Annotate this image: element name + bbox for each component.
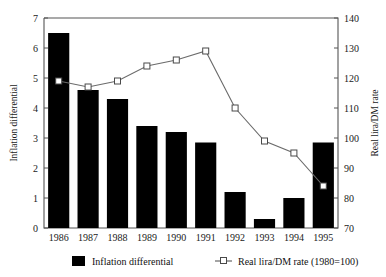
line-marker-1986 [56, 78, 62, 84]
right-tick-label-120: 120 [344, 73, 359, 84]
bar-1987 [78, 90, 99, 228]
left-tick-label-5: 5 [33, 73, 38, 84]
left-tick-label-3: 3 [33, 133, 38, 144]
x-label-1991: 1991 [196, 232, 216, 243]
x-label-1995: 1995 [313, 232, 333, 243]
line-marker-1988 [115, 78, 121, 84]
line-marker-1991 [203, 48, 209, 54]
bar-1988 [107, 99, 128, 228]
x-label-1994: 1994 [284, 232, 304, 243]
line-marker-1989 [144, 63, 150, 69]
bar-1989 [136, 126, 157, 228]
line-marker-1987 [85, 84, 91, 90]
left-tick-label-6: 6 [33, 43, 38, 54]
bar-1991 [195, 143, 216, 229]
bar-1990 [166, 132, 187, 228]
right-tick-label-90: 90 [344, 163, 354, 174]
right-tick-label-70: 70 [344, 223, 354, 234]
right-tick-label-110: 110 [344, 103, 359, 114]
left-axis-title: Inflation differential [9, 84, 19, 161]
right-axis-title: Real lira/DM rate [370, 89, 380, 156]
legend-swatch-inflation-differential [72, 256, 85, 266]
legend-marker-real-lira-dm-rate [221, 258, 227, 264]
right-tick-label-100: 100 [344, 133, 359, 144]
bar-1993 [254, 219, 275, 228]
x-label-1986: 1986 [49, 232, 69, 243]
x-label-1987: 1987 [78, 232, 98, 243]
left-tick-label-1: 1 [33, 193, 38, 204]
left-axis: 01234567 [33, 13, 48, 234]
line-marker-1990 [173, 57, 179, 63]
legend-label-inflation-differential: Inflation differential [92, 256, 173, 267]
legend-label-real-lira-dm-rate: Real lira/DM rate (1980=100) [238, 256, 358, 268]
line-marker-1995 [320, 183, 326, 189]
right-tick-label-80: 80 [344, 193, 354, 204]
line-marker-1992 [232, 105, 238, 111]
x-label-1988: 1988 [108, 232, 128, 243]
bar-series-inflation-differential [48, 33, 334, 228]
x-label-1993: 1993 [255, 232, 275, 243]
left-tick-label-0: 0 [33, 223, 38, 234]
left-tick-label-7: 7 [33, 13, 38, 24]
line-marker-1993 [262, 138, 268, 144]
inflation-vs-lira-chart: 01234567 708090100110120130140 Inflation… [0, 0, 386, 277]
bar-1994 [283, 198, 304, 228]
x-label-1992: 1992 [225, 232, 245, 243]
line-marker-1994 [291, 150, 297, 156]
right-tick-label-140: 140 [344, 13, 359, 24]
right-tick-label-130: 130 [344, 43, 359, 54]
left-tick-label-4: 4 [33, 103, 38, 114]
bar-1986 [48, 33, 69, 228]
chart-legend: Inflation differential Real lira/DM rate… [72, 256, 358, 268]
x-label-1989: 1989 [137, 232, 157, 243]
chart-figure: 01234567 708090100110120130140 Inflation… [0, 0, 386, 277]
x-axis-category-labels: 1986198719881989199019911992199319941995 [49, 232, 334, 243]
cropped-caption-text [6, 0, 376, 5]
left-tick-label-2: 2 [33, 163, 38, 174]
x-label-1990: 1990 [166, 232, 186, 243]
bar-1992 [225, 192, 246, 228]
